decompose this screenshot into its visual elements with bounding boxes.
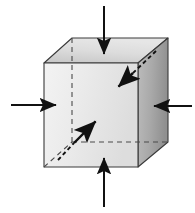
figure-root: [0, 0, 195, 213]
stress-cube-diagram: [0, 0, 195, 213]
cube-front-face: [44, 63, 138, 167]
